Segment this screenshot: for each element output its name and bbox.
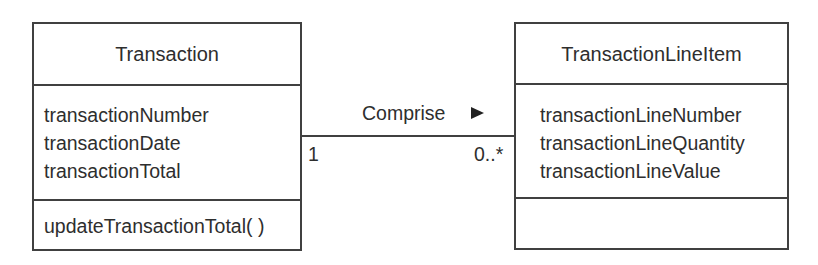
class-name-compartment: Transaction — [34, 24, 300, 84]
attributes-compartment: transactionNumber transactionDate transa… — [34, 84, 300, 199]
class-transaction: Transaction transactionNumber transactio… — [32, 22, 302, 251]
source-multiplicity: 1 — [308, 142, 319, 166]
triangle-right-icon — [471, 107, 484, 119]
operations-compartment — [516, 197, 787, 250]
attribute: transactionLineNumber — [540, 101, 787, 129]
class-transaction-line-item: TransactionLineItem transactionLineNumbe… — [514, 22, 789, 250]
class-name-compartment: TransactionLineItem — [516, 24, 787, 83]
attributes-compartment: transactionLineNumber transactionLineQua… — [516, 83, 787, 197]
attribute: transactionDate — [44, 129, 300, 157]
attribute: transactionNumber — [44, 101, 300, 129]
attribute: transactionLineValue — [540, 157, 787, 185]
attribute: transactionLineQuantity — [540, 129, 787, 157]
association-name: Comprise — [362, 101, 445, 125]
class-name: TransactionLineItem — [516, 42, 787, 66]
attribute: transactionTotal — [44, 157, 300, 185]
class-name: Transaction — [34, 42, 300, 66]
target-multiplicity: 0..* — [474, 142, 503, 166]
association-line — [301, 135, 515, 137]
operation: updateTransactionTotal( ) — [44, 212, 300, 240]
operations-compartment: updateTransactionTotal( ) — [34, 199, 300, 251]
